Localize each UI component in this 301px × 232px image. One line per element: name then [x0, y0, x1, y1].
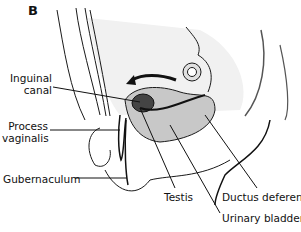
label-urinary-bladder: Urinary bladder — [222, 212, 301, 224]
label-inguinal-canal-line1: Inguinal — [8, 72, 52, 84]
gubernaculum-cord — [125, 120, 128, 185]
right-curve-1 — [245, 30, 264, 116]
label-testis: Testis — [164, 191, 193, 203]
label-process-vaginalis: Process vaginalis — [2, 120, 48, 144]
body-wall-line-1 — [57, 10, 85, 120]
scrotum-outline — [89, 128, 110, 166]
lower-skin-contour — [105, 160, 230, 191]
label-process-vaginalis-line2: vaginalis — [2, 132, 48, 144]
label-inguinal-canal: Inguinal canal — [8, 72, 52, 96]
panel-letter: B — [28, 3, 38, 18]
label-process-vaginalis-line1: Process — [2, 120, 48, 132]
label-gubernaculum: Gubernaculum — [3, 173, 80, 185]
label-inguinal-canal-line2: canal — [8, 84, 52, 96]
leader-ductus-deferens — [205, 115, 257, 188]
right-curve-2 — [280, 45, 288, 120]
label-ductus-deferens: Ductus deferens — [222, 191, 301, 203]
